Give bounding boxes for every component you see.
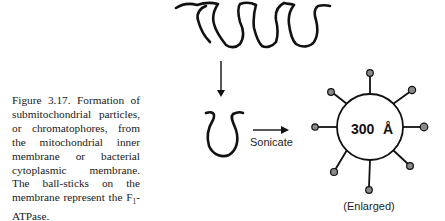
particle-unit-label: Å [383,121,393,137]
sonicate-arrow-icon [253,126,289,134]
enlarged-label: (Enlarged) [343,200,394,212]
sonicate-label: Sonicate [250,136,293,148]
figure-diagram: Sonicate 300 Å (Enlarged) [0,0,445,221]
down-arrow-icon [217,61,225,97]
vesicle-icon [206,112,243,156]
folded-membrane-icon [176,3,330,47]
submitochondrial-particle-icon: 300 Å (Enlarged) [312,70,428,212]
particle-size-label: 300 [351,121,375,137]
